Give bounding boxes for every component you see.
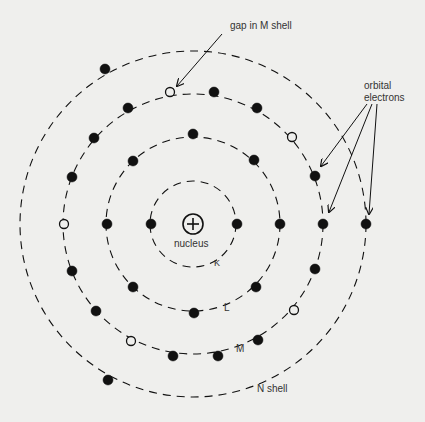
gap-annotation: gap in M shell <box>230 20 292 32</box>
electron-icon <box>188 129 198 139</box>
electron-icon <box>103 375 113 385</box>
gap-arrow <box>177 34 222 86</box>
electron-vacancy-icon <box>127 337 136 346</box>
electron-icon <box>100 64 110 74</box>
diagram-canvas <box>0 0 425 422</box>
shell-n-label: N shell <box>257 383 288 395</box>
electron-icon <box>146 219 156 229</box>
electron-icon <box>310 264 320 274</box>
electron-icon <box>168 351 178 361</box>
electron-icon <box>252 103 262 113</box>
electron-vacancy-icon <box>288 133 297 142</box>
electron-icon <box>213 351 223 361</box>
electron-vacancy-icon <box>166 88 175 97</box>
nucleus-icon <box>183 214 203 234</box>
shell-m-label: M <box>236 343 244 355</box>
electron-icon <box>232 219 242 229</box>
electron-icon <box>209 87 219 97</box>
shell-k-label: K <box>214 257 220 269</box>
annotation-arrows <box>177 34 377 214</box>
orbital-arrow-3 <box>369 104 377 214</box>
electron-icon <box>361 219 371 229</box>
electron-icon <box>89 133 99 143</box>
nucleus-label: nucleus <box>174 238 208 250</box>
orbital-annotation-line1: orbital <box>364 80 391 92</box>
atom-shell-diagram: nucleus K L M N shell gap in M shell orb… <box>0 0 425 422</box>
electron-icon <box>91 306 101 316</box>
electron-icon <box>253 335 263 345</box>
electron-icon <box>275 219 285 229</box>
electron-icon <box>102 219 112 229</box>
electron-icon <box>128 282 138 292</box>
electron-icon <box>67 172 77 182</box>
electrons <box>60 64 372 385</box>
electron-vacancy-icon <box>60 220 69 229</box>
orbital-annotation-line2: electrons <box>364 92 405 104</box>
electron-icon <box>249 155 259 165</box>
electron-icon <box>123 103 133 113</box>
orbital-arrow-2 <box>329 104 372 212</box>
electron-icon <box>310 171 320 181</box>
electron-icon <box>318 219 328 229</box>
electron-icon <box>67 266 77 276</box>
electron-icon <box>128 156 138 166</box>
electron-icon <box>251 282 261 292</box>
shell-l-label: L <box>224 302 230 314</box>
electron-vacancy-icon <box>290 306 299 315</box>
electron-icon <box>189 308 199 318</box>
